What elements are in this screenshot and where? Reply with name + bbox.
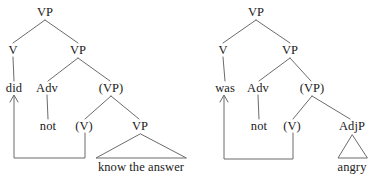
- node-adv: Adv: [36, 82, 58, 95]
- branch-v-was: [223, 57, 225, 81]
- tree-was-branches: was -->: [220, 20, 367, 159]
- node-v-trace: (V): [283, 120, 301, 133]
- branch-vpmid-adv: [48, 58, 78, 81]
- node-leaf-not: not: [40, 120, 56, 133]
- node-leaf-angry: angry: [338, 161, 367, 174]
- branch-adv-not: [258, 95, 259, 119]
- branch-adv-not: [47, 95, 48, 119]
- branch-vptrace-vtrace: [293, 96, 312, 119]
- branch-vptrace-vtrace: [85, 96, 111, 119]
- branch-vpmid-vptrace: [78, 58, 110, 81]
- triangle-know-the-answer: [96, 134, 186, 158]
- triangle-angry: [338, 135, 367, 158]
- node-vp-low: VP: [132, 120, 148, 133]
- node-vp-trace: (VP): [300, 82, 325, 95]
- node-adjp: AdjP: [339, 120, 365, 133]
- node-leaf-did: did: [6, 82, 22, 95]
- branch-vptrace-adjp: [312, 96, 350, 119]
- node-vp-top: VP: [248, 6, 264, 19]
- node-adv: Adv: [247, 82, 269, 95]
- node-v-trace: (V): [75, 120, 93, 133]
- branch-v-did: [13, 57, 14, 81]
- node-v-head: V: [218, 44, 227, 57]
- node-leaf-know-the-answer: know the answer: [98, 161, 184, 174]
- branch-vpmid-vptrace: [290, 58, 311, 81]
- branch-vptop-v: [13, 20, 45, 43]
- node-leaf-was: was: [215, 82, 235, 95]
- node-vp-mid: VP: [282, 44, 298, 57]
- node-vp-top: VP: [37, 6, 53, 19]
- branch-vptop-vpmid: [256, 20, 290, 43]
- node-v-head: V: [8, 44, 17, 57]
- node-vp-trace: (VP): [99, 82, 124, 95]
- branch-vptrace-vplow: [111, 96, 139, 119]
- syntax-tree-figure: did --> was -->: [0, 0, 372, 177]
- node-vp-mid: VP: [70, 44, 86, 57]
- branch-vpmid-adv: [259, 58, 290, 81]
- node-leaf-not: not: [251, 120, 267, 133]
- branch-vptop-vpmid: [45, 20, 78, 43]
- branch-vptop-v: [223, 20, 256, 43]
